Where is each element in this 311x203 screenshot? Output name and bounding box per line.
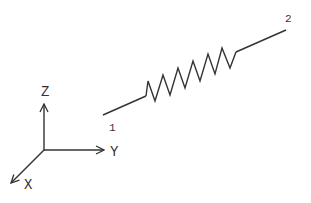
spring-element [103,30,286,115]
node-1-label: 1 [109,122,116,134]
node-2-label: 2 [285,13,292,25]
spring-lead-1 [103,96,146,115]
x-axis-label: X [24,177,33,193]
y-axis-label: Y [110,144,119,160]
coordinate-axes [11,104,104,183]
spring-lead-2 [236,30,286,52]
diagram-canvas: Z Y X 1 2 [0,0,311,203]
spring-coil [146,48,236,101]
z-axis-label: Z [41,84,49,100]
